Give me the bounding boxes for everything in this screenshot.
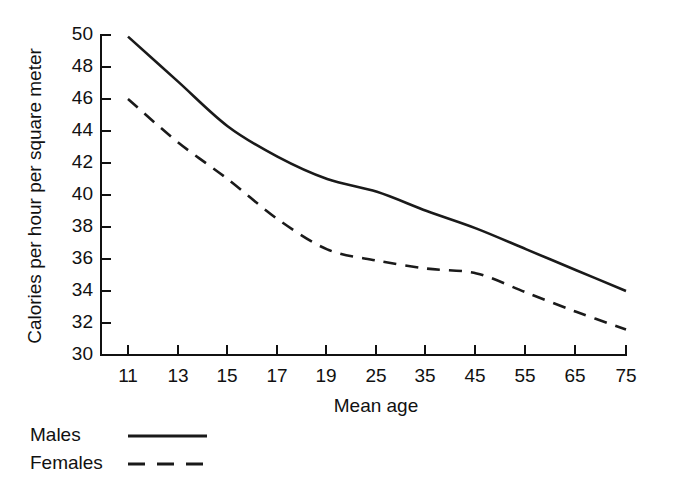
x-tick-label: 15 bbox=[216, 365, 237, 386]
y-tick-label: 44 bbox=[72, 119, 94, 140]
chart-figure: Calories per hour per square meter 30 32… bbox=[0, 0, 673, 490]
y-tick-labels: 30 32 34 36 38 40 42 44 46 48 50 bbox=[72, 23, 94, 364]
x-tick-label: 65 bbox=[564, 365, 585, 386]
y-tick-label: 46 bbox=[72, 87, 93, 108]
y-tick-label: 38 bbox=[72, 215, 93, 236]
y-tick-label: 30 bbox=[72, 343, 93, 364]
x-tick-label: 45 bbox=[464, 365, 485, 386]
x-tick-label: 19 bbox=[315, 365, 336, 386]
x-tick-label: 25 bbox=[365, 365, 386, 386]
y-tick-label: 50 bbox=[72, 23, 93, 44]
x-tick-label: 11 bbox=[118, 365, 138, 386]
y-tick-label: 32 bbox=[72, 311, 93, 332]
line-chart: Calories per hour per square meter 30 32… bbox=[0, 0, 673, 490]
legend-label-males: Males bbox=[30, 424, 81, 445]
x-axis-title: Mean age bbox=[334, 395, 419, 416]
x-tick-label: 75 bbox=[615, 365, 636, 386]
x-tick-label: 17 bbox=[266, 365, 287, 386]
y-tick-label: 48 bbox=[72, 55, 93, 76]
y-tick-marks bbox=[101, 35, 111, 355]
legend-label-females: Females bbox=[30, 452, 103, 473]
y-tick-label: 42 bbox=[72, 151, 93, 172]
series-line-females bbox=[128, 99, 626, 329]
x-tick-label: 13 bbox=[167, 365, 188, 386]
x-tick-label: 55 bbox=[514, 365, 535, 386]
y-tick-label: 36 bbox=[72, 247, 93, 268]
x-tick-marks bbox=[128, 345, 626, 355]
chart-legend: Males Females bbox=[30, 424, 207, 473]
x-tick-labels: 11 13 15 17 19 25 35 45 55 65 75 bbox=[118, 365, 636, 386]
series-line-males bbox=[128, 37, 626, 291]
y-tick-label: 40 bbox=[72, 183, 93, 204]
y-axis-title: Calories per hour per square meter bbox=[24, 47, 45, 343]
y-tick-label: 34 bbox=[72, 279, 94, 300]
x-tick-label: 35 bbox=[414, 365, 435, 386]
